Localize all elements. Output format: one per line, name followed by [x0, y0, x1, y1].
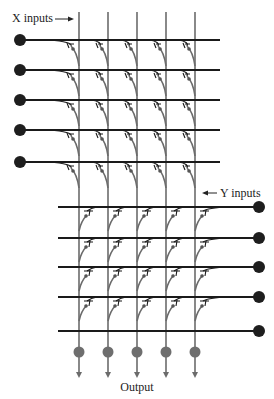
x-input-node — [14, 156, 26, 168]
output-node — [132, 347, 143, 358]
synapse-dot — [158, 137, 162, 141]
synapse-dot — [129, 137, 133, 141]
synapse-dot — [158, 169, 162, 173]
synapse-dot — [158, 77, 162, 81]
synapse-dot — [187, 169, 191, 173]
y-input-node — [253, 232, 265, 244]
y-inputs-label: Y inputs — [220, 186, 261, 200]
x-input-node — [14, 64, 26, 76]
synapse-dot — [113, 214, 117, 218]
y-input-node — [253, 291, 265, 303]
synapse-dot — [129, 169, 133, 173]
synapse-dot — [71, 107, 75, 111]
synapse-dot — [100, 137, 104, 141]
x-inputs-label: X inputs — [12, 11, 53, 25]
y-input-node — [253, 201, 265, 213]
x-input-node — [14, 34, 26, 46]
synapse-dot — [100, 47, 104, 51]
synapse-dot — [84, 245, 88, 249]
synapse-dot — [200, 304, 204, 308]
synapse-dot — [71, 169, 75, 173]
synapse-dot — [84, 274, 88, 278]
output-node — [161, 347, 172, 358]
synapse-dot — [100, 169, 104, 173]
synapse-dot — [200, 274, 204, 278]
synapse-dot — [71, 77, 75, 81]
synapse-dot — [187, 47, 191, 51]
synapse-dot — [142, 274, 146, 278]
output-node — [190, 347, 201, 358]
x-input-lines — [14, 34, 220, 168]
y-inputs-arrow-icon — [202, 191, 217, 196]
synapse-dot — [71, 47, 75, 51]
synapse-dot — [187, 107, 191, 111]
synapse-dot — [113, 245, 117, 249]
x-input-node — [14, 94, 26, 106]
synapse-dot — [158, 107, 162, 111]
x-input-node — [14, 124, 26, 136]
synapse-dot — [171, 274, 175, 278]
synapse-dot — [142, 304, 146, 308]
output-arrow-icon — [76, 372, 82, 378]
crossbar-diagram: X inputs Y inputs Output — [0, 0, 274, 399]
synapse-dot — [158, 47, 162, 51]
x-inputs-arrow-icon — [55, 17, 74, 22]
synapse-dot — [171, 245, 175, 249]
synapse-dot — [129, 77, 133, 81]
synapse-dot — [171, 304, 175, 308]
synapse-dot — [171, 214, 175, 218]
y-input-node — [253, 261, 265, 273]
output-node — [103, 347, 114, 358]
synapse-dot — [142, 214, 146, 218]
output-arrow-icon — [134, 372, 140, 378]
synapse-dot — [113, 304, 117, 308]
synapse-dot — [129, 107, 133, 111]
synapse-dot — [100, 77, 104, 81]
synapse-dot — [187, 77, 191, 81]
synapse-dot — [200, 245, 204, 249]
synapse-dot — [71, 137, 75, 141]
synapse-dot — [142, 245, 146, 249]
synapse-dot — [200, 214, 204, 218]
synapse-dot — [100, 107, 104, 111]
output-label: Output — [120, 380, 154, 394]
output-arrow-icon — [163, 372, 169, 378]
synapse-dot — [113, 274, 117, 278]
synapse-dot — [84, 304, 88, 308]
output-arrow-icon — [105, 372, 111, 378]
synapse-dot — [84, 214, 88, 218]
output-node — [74, 347, 85, 358]
synapses — [49, 40, 229, 321]
crossbar-svg: X inputs Y inputs Output — [0, 0, 274, 399]
output-arrow-icon — [192, 372, 198, 378]
synapse-dot — [187, 137, 191, 141]
synapse-dot — [129, 47, 133, 51]
y-input-node — [253, 325, 265, 337]
